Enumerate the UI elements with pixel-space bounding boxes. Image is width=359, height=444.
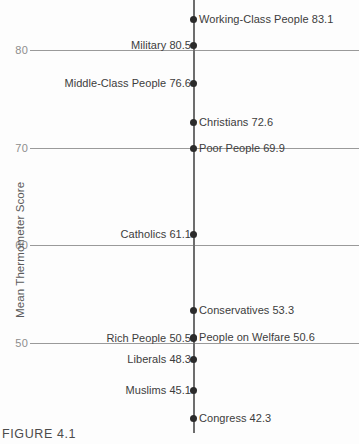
y-tick-label-80: 80 [6,45,28,56]
data-point-dot[interactable] [190,307,197,314]
y-axis-title: Mean Thermometer Score [14,182,26,318]
data-point-label: Conservatives 53.3 [199,305,294,316]
data-point-dot[interactable] [190,415,197,422]
data-point-label: Liberals 48.3 [127,354,191,365]
y-tick-label-50: 50 [6,338,28,349]
data-point-label: Christians 72.6 [199,117,273,128]
data-point-label: Muslims 45.1 [126,385,191,396]
chart-plot-area: 80706050 Working-Class People 83.1Milita… [0,0,359,444]
data-point-dot[interactable] [190,16,197,23]
figure-container: 80706050 Working-Class People 83.1Milita… [0,0,359,444]
data-point-label: Congress 42.3 [199,413,271,424]
vertical-value-axis [193,0,195,433]
data-point-dot[interactable] [190,356,197,363]
data-point-dot[interactable] [190,231,197,238]
data-point-label: Rich People 50.5 [106,333,191,344]
data-point-label: Middle-Class People 76.6 [64,78,191,89]
data-point-dot[interactable] [190,145,197,152]
y-tick-label-70: 70 [6,143,28,154]
figure-caption: FIGURE 4.1 [2,427,76,441]
data-point-label: Catholics 61.1 [121,229,191,240]
data-point-dot[interactable] [190,119,197,126]
data-point-dot[interactable] [190,387,197,394]
data-point-dot[interactable] [190,42,197,49]
data-point-label: Military 80.5 [131,40,191,51]
data-point-label: Poor People 69.9 [199,143,285,154]
data-point-label: People on Welfare 50.6 [199,332,315,343]
data-point-dot[interactable] [190,334,197,341]
data-point-dot[interactable] [190,80,197,87]
data-point-label: Working-Class People 83.1 [199,14,333,25]
